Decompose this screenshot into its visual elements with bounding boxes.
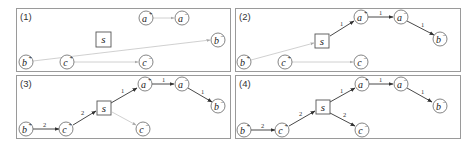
svg-text:c: c [357,57,362,68]
node-b-plus: b + [19,55,33,69]
node-c-plus: c + [275,123,289,137]
svg-text:c: c [62,124,67,135]
edge-label-c-plus-s: 2 [299,110,302,117]
panel-3-label: (3) [20,78,32,89]
edge-label-s-c-minus: 2 [343,111,346,118]
edge-label-a-plus-a-minus: 1 [162,76,165,83]
svg-text:b: b [214,35,219,46]
node-c-minus: c − [136,122,150,136]
svg-text:a: a [357,12,362,23]
svg-text:c: c [281,57,286,68]
svg-text:b: b [240,125,245,136]
svg-text:b: b [436,101,441,112]
edge-label-a-minus-b-minus: 1 [201,88,204,95]
node-a-plus: a + [138,77,152,91]
node-a-minus: a − [175,11,189,25]
svg-text:a: a [141,79,146,90]
svg-text:a: a [178,13,183,24]
svg-text:b: b [22,124,27,135]
svg-text:s: s [101,33,105,45]
svg-text:c: c [63,57,68,68]
panel-4-border [236,76,461,139]
panel-3: (3) 2 2 1 1 1 s a + a − b − [17,76,231,139]
node-c-plus: c + [278,55,292,69]
panel-1-label: (1) [20,11,32,22]
edge-label-a-minus-b-minus: 1 [421,21,424,28]
svg-text:b: b [240,57,245,68]
edge-label-s-a-plus: 1 [121,87,124,94]
edge-label-s-a-plus: 1 [340,20,343,27]
edge-b-plus-to-b-minus [33,40,210,61]
svg-text:c: c [358,125,363,136]
node-b-plus: b + [237,55,251,69]
svg-text:a: a [397,79,402,90]
svg-text:c: c [278,125,283,136]
svg-text:c: c [139,124,144,135]
node-a-plus: a + [139,11,153,25]
node-c-plus: c + [60,55,74,69]
svg-text:s: s [102,102,106,114]
panel-1: (1) s a + a − b − b + c [17,9,231,72]
svg-text:c: c [142,57,147,68]
node-s: s [315,34,329,48]
panel-4: (4) 2 2 1 1 1 2 s a + a − b − [236,76,461,139]
edge-s-to-c-minus [112,112,136,125]
node-b-minus: b − [211,99,225,113]
edge-a-minus-to-b-minus [188,88,212,102]
node-c-plus: c + [59,122,73,136]
node-c-minus: c − [355,123,369,137]
edge-label-a-plus-a-minus: 1 [379,9,382,16]
svg-text:a: a [397,12,402,23]
node-c-minus: c − [354,55,368,69]
node-a-minus: a − [175,77,189,91]
edge-a-minus-to-b-minus [407,88,432,102]
node-s: s [97,101,111,115]
edge-label-b-plus-c-plus: 2 [261,122,264,129]
node-a-minus: a − [394,77,408,91]
panel-2: (2) 1 1 1 s a + a − b − b + [236,9,461,72]
node-b-plus: b + [237,123,251,137]
node-a-plus: a + [355,77,369,91]
node-a-minus: a − [394,10,408,24]
svg-text:a: a [178,79,183,90]
svg-text:b: b [22,57,27,68]
edge-c-plus-to-s [73,111,96,125]
node-b-plus: b + [19,122,33,136]
node-s: s [316,100,330,114]
svg-text:b: b [214,101,219,112]
edge-label-b-plus-c-plus: 2 [43,121,46,128]
node-a-plus: a + [354,10,368,24]
panel-4-label: (4) [239,78,251,89]
svg-text:s: s [321,101,325,113]
node-s: s [96,32,111,47]
svg-text:s: s [320,35,324,47]
node-b-minus: b − [433,99,447,113]
svg-text:b: b [436,34,441,45]
panel-2-label: (2) [239,11,251,22]
node-c-minus: c − [139,55,153,69]
edge-label-a-minus-b-minus: 1 [421,88,424,95]
edge-label-a-plus-a-minus: 1 [379,76,382,83]
svg-text:a: a [142,13,147,24]
edge-label-c-plus-s: 2 [81,109,84,116]
node-b-minus: b − [211,33,225,47]
flow-network-diagram: (1) s a + a − b − b + c [0,0,465,147]
node-b-minus: b − [433,32,447,46]
edge-label-s-a-plus: 1 [340,87,343,94]
svg-text:a: a [358,79,363,90]
